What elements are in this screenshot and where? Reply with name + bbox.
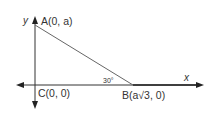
x-axis-label: x [183,72,190,83]
hypotenuse-ab [35,25,133,85]
point-b-label: B(a√3, 0) [122,89,165,101]
point-c-label: C(0, 0) [38,87,70,99]
y-axis-up-arrow-icon [32,16,38,24]
coordinate-diagram: y x A(0, a) C(0, 0) B(a√3, 0) 30° [0,0,213,116]
x-axis-left-arrow-icon [16,82,24,88]
x-axis-right-arrow-icon [196,82,204,88]
y-axis-label: y [22,15,29,26]
point-a-label: A(0, a) [41,15,73,27]
angle-label: 30° [103,77,114,84]
y-axis-down-arrow-icon [32,101,38,109]
